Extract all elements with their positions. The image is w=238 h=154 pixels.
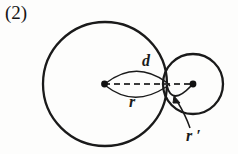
radius-arc-r-prime [167, 86, 191, 96]
small-circle-center-dot [190, 81, 197, 88]
large-circle-center-dot [101, 81, 108, 88]
figure-container: (2) d r r ′ [0, 0, 238, 154]
geometry-diagram [0, 0, 238, 154]
distance-arc-d [106, 71, 166, 83]
r-prime-arrowhead-icon [173, 96, 180, 103]
radius-label-r-prime: r ′ [186, 128, 201, 144]
radius-arc-r [106, 86, 166, 97]
distance-label-d: d [142, 53, 150, 69]
radius-label-r: r [129, 94, 135, 110]
